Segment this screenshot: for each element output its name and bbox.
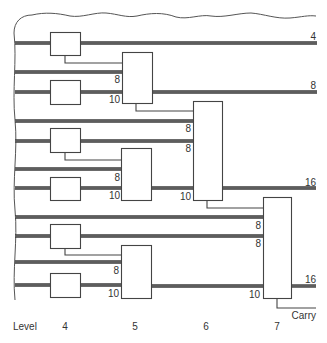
l6-input-label-a: 8 bbox=[185, 123, 191, 134]
l6-input-label-b: 8 bbox=[185, 143, 191, 154]
wire-l5a-to-l6 bbox=[136, 103, 193, 111]
level-axis-title: Level bbox=[13, 321, 37, 332]
level4-box-2 bbox=[51, 81, 81, 105]
output-label-4: 4 bbox=[310, 31, 316, 42]
level-label-6: 6 bbox=[203, 321, 209, 332]
l5a-input-label-a: 8 bbox=[114, 74, 120, 85]
level-label-4: 4 bbox=[62, 321, 68, 332]
wire-l4b3-to-l5b bbox=[65, 152, 122, 160]
l7-input-label-a: 8 bbox=[255, 220, 261, 231]
level5-adder-1 bbox=[123, 53, 153, 104]
carry-label: Carry bbox=[292, 310, 316, 321]
wire-l4b5-to-l5c bbox=[65, 248, 121, 255]
l5b-input-label-a: 8 bbox=[114, 172, 120, 183]
level-label-7: 7 bbox=[274, 321, 280, 332]
l5b-input-label-b: 10 bbox=[109, 190, 121, 201]
output-label-8: 8 bbox=[310, 80, 316, 91]
wire-l6-to-l7 bbox=[207, 200, 263, 208]
level4-box-5 bbox=[51, 225, 81, 249]
level4-box-1 bbox=[51, 33, 81, 56]
level6-adder bbox=[194, 102, 223, 201]
output-label-16-upper: 16 bbox=[305, 177, 317, 188]
level4-box-3 bbox=[51, 129, 81, 153]
l7-input-label-c: 10 bbox=[249, 289, 261, 300]
carry-wire bbox=[277, 298, 316, 308]
level5-adder-3 bbox=[122, 246, 152, 299]
l5c-input-label-b: 10 bbox=[108, 288, 120, 299]
output-label-16-lower: 16 bbox=[305, 274, 317, 285]
l7-input-label-b: 8 bbox=[255, 238, 261, 249]
l5c-input-label-a: 8 bbox=[113, 265, 119, 276]
level7-adder bbox=[264, 198, 292, 299]
l5a-input-label-b: 10 bbox=[109, 94, 121, 105]
level5-adder-2 bbox=[122, 149, 152, 201]
level4-box-4 bbox=[51, 178, 81, 201]
level4-box-6 bbox=[51, 274, 81, 298]
adder-tree-diagram: 4 8 16 16 8 10 8 8 10 8 10 8 8 10 8 10 C… bbox=[0, 0, 327, 343]
wire-l4b1-to-l5a bbox=[65, 55, 122, 63]
top-wavy-edge bbox=[14, 13, 316, 33]
level-label-5: 5 bbox=[132, 321, 138, 332]
l6-input-label-c: 10 bbox=[180, 191, 192, 202]
